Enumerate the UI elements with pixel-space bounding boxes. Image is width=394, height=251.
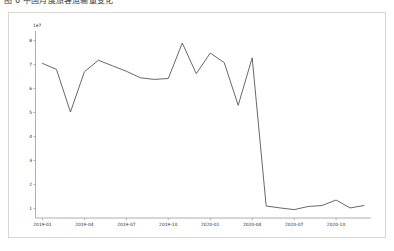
x-tick-label: 2020-01 [201, 222, 220, 227]
y-tick-label: 5 [29, 110, 32, 115]
y-axis-ticks: 12345678 [29, 38, 35, 211]
x-axis-ticks: 2019-012019-042019-072019-102020-012020-… [33, 218, 345, 227]
x-tick-label: 2019-07 [117, 222, 136, 227]
y-tick-label: 7 [29, 62, 32, 67]
y-tick-label: 6 [29, 86, 32, 91]
series-line-passenger_volume [42, 43, 364, 210]
chart-figure: 1e7 12345678 2019-012019-042019-072019-1… [9, 13, 387, 239]
x-tick-label: 2020-04 [243, 222, 262, 227]
y-tick-label: 2 [29, 182, 32, 187]
chart-card: 1e7 12345678 2019-012019-042019-072019-1… [8, 12, 386, 238]
y-tick-label: 3 [29, 158, 32, 163]
chart-series-group [42, 43, 364, 210]
x-tick-label: 2020-07 [285, 222, 304, 227]
x-tick-label: 2019-10 [159, 222, 178, 227]
x-tick-label: 2019-01 [33, 222, 52, 227]
x-tick-label: 2020-10 [327, 222, 346, 227]
document-heading: 图 6 中国月度旅客运输量变化 [4, 0, 204, 6]
x-tick-label: 2019-04 [75, 222, 94, 227]
y-tick-label: 1 [29, 206, 32, 211]
y-axis-offset-label: 1e7 [33, 23, 41, 28]
y-tick-label: 8 [29, 38, 32, 43]
line-chart-plot: 1e7 12345678 2019-012019-042019-072019-1… [9, 13, 387, 239]
y-tick-label: 4 [29, 134, 32, 139]
